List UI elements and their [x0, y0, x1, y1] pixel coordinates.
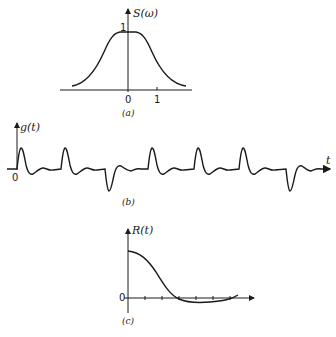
panel-b-waveform [7, 148, 330, 191]
panel-b-caption: (b) [122, 197, 135, 207]
panel-a-curve [72, 32, 186, 86]
panel-c-ylabel: R(t) [131, 224, 153, 237]
panel-a-tick-0-label: 0 [125, 94, 131, 105]
panel-b-origin-label: 0 [12, 172, 18, 183]
panel-a-ylabel: S(ω) [133, 7, 158, 20]
figure: S(ω) 1 0 1 (a) g(t) 0 t (b) R(t) 0 (c) [0, 0, 336, 337]
panel-b-xlabel: t [326, 154, 331, 167]
panel-c-caption: (c) [122, 316, 135, 326]
panel-a-caption: (a) [122, 108, 135, 118]
panel-a-tick-1-label: 1 [154, 94, 160, 105]
panel-a-peak-label: 1 [120, 22, 126, 33]
panel-b-ylabel: g(t) [20, 121, 40, 134]
panel-a-spectrum: S(ω) 1 0 1 (a) [60, 7, 192, 118]
panel-c-origin-label: 0 [119, 292, 125, 303]
panel-c-curve [128, 251, 238, 303]
panel-c-autocorrelation: R(t) 0 (c) [119, 224, 254, 326]
panel-b-signal: g(t) 0 t (b) [7, 121, 331, 207]
